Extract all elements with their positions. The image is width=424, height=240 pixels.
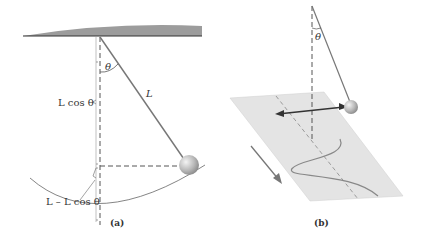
- pendulum-string: [100, 37, 188, 165]
- brace-l-cos: [93, 62, 98, 164]
- theta-label: θ: [105, 61, 111, 72]
- pendulum-string-b: [312, 6, 350, 102]
- brace-height: [93, 168, 98, 220]
- pendulum-bob: [179, 155, 199, 175]
- theta-label-b: θ: [315, 31, 321, 42]
- l-cos-theta-label: L cos θ: [58, 97, 94, 108]
- panel-a: θ L L cos θ L – L cos θ (a): [23, 25, 205, 228]
- length-label: L: [145, 88, 153, 99]
- caption-a: (a): [110, 218, 124, 228]
- panel-b: θ (b): [230, 6, 403, 228]
- pendulum-bob-b: [344, 100, 358, 114]
- angle-arc-b: [312, 28, 321, 29]
- height-label: L – L cos θ: [46, 196, 100, 207]
- ceiling: [23, 25, 202, 36]
- caption-b: (b): [314, 218, 329, 228]
- pendulum-diagram: θ L L cos θ L – L cos θ (a) θ (b): [0, 0, 424, 240]
